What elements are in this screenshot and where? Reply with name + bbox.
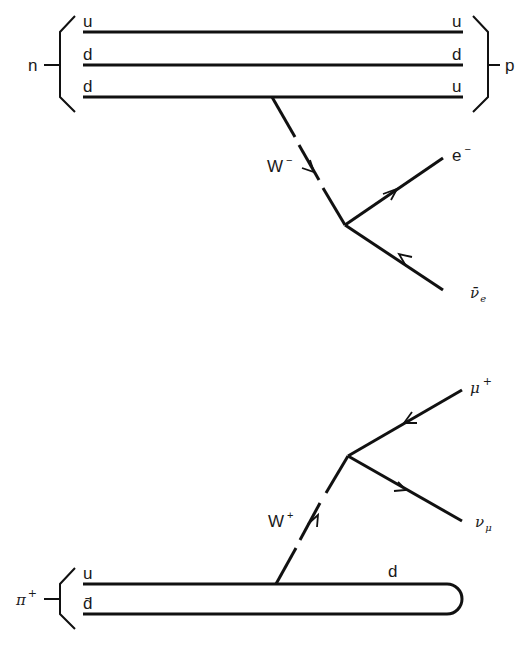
antineutrino-arrow-icon	[399, 254, 412, 266]
proton-bracket	[473, 16, 500, 112]
pion-label: π+	[15, 587, 37, 609]
quark-label-left-2: d	[83, 45, 92, 64]
quark-label-u: u	[83, 564, 92, 583]
pion-decay-diagram: π+ u d̄ d W+ μ+ νμ	[15, 375, 492, 629]
w-plus-label: W+	[268, 509, 293, 531]
antineutrino-line	[345, 225, 443, 290]
antineutrino-label: ν̄e	[470, 284, 486, 304]
quark-label-left-1: u	[83, 12, 92, 31]
quark-label-dbar: d̄	[83, 594, 92, 613]
muon-line	[348, 390, 462, 456]
muon-neutrino-line	[348, 456, 462, 521]
feynman-diagrams: n p u d d u d u W− e−	[0, 0, 516, 645]
electron-label: e−	[452, 143, 471, 165]
muon-label: μ+	[470, 375, 492, 397]
neutron-label: n	[28, 56, 37, 75]
electron-line	[345, 158, 443, 225]
pion-quark-loop	[83, 584, 462, 614]
pion-bracket	[44, 568, 75, 629]
w-minus-label: W−	[267, 154, 292, 176]
neutron-bracket	[44, 16, 75, 112]
quark-label-right-2: d	[452, 45, 461, 64]
muon-neutrino-label: νμ	[475, 513, 492, 533]
neutron-beta-decay-diagram: n p u d d u d u W− e−	[28, 12, 514, 304]
quark-label-d: d	[388, 562, 397, 581]
quark-label-left-3: d	[83, 77, 92, 96]
quark-label-right-3: u	[452, 77, 461, 96]
quark-label-right-1: u	[452, 12, 461, 31]
proton-label: p	[505, 56, 514, 75]
